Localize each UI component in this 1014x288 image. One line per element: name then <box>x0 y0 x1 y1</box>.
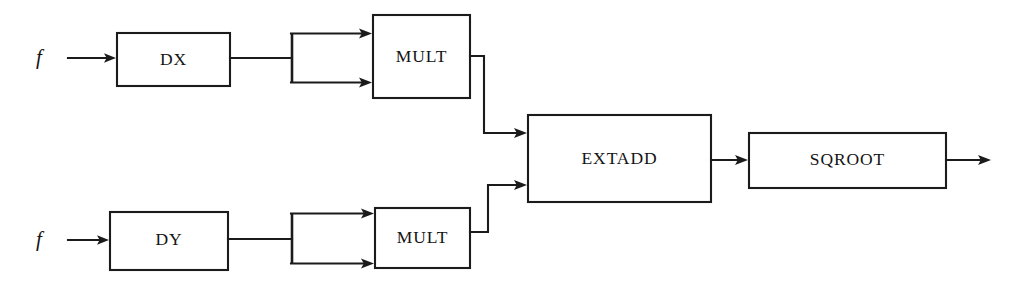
source-label-f-bottom: f <box>36 227 45 251</box>
edge-f-dy <box>68 235 109 245</box>
block-dy-label: DY <box>155 229 182 249</box>
edge-fork-mult-y-lower <box>291 258 374 268</box>
block-dy[interactable]: DY <box>110 212 228 270</box>
source-label-f-top: f <box>36 45 45 69</box>
edge-sqroot-output <box>946 155 991 165</box>
edge-fork-mult-x-lower <box>291 77 372 87</box>
block-diagram-canvas: f DX MULT <box>0 0 1014 288</box>
edge-fork-mult-y-upper <box>291 208 374 218</box>
block-extadd-label: EXTADD <box>582 148 658 168</box>
block-sqroot[interactable]: SQROOT <box>749 133 946 188</box>
edge-mult-x-extadd <box>470 56 527 138</box>
block-sqroot-label: SQROOT <box>810 149 885 169</box>
edge-extadd-sqroot <box>711 155 748 165</box>
block-mult-x[interactable]: MULT <box>373 15 470 98</box>
block-mult-y-label: MULT <box>397 227 449 247</box>
block-dx[interactable]: DX <box>117 33 230 86</box>
block-mult-x-label: MULT <box>396 46 448 66</box>
diagram-svg: f DX MULT <box>0 0 1014 288</box>
edge-mult-y-extadd <box>470 180 527 232</box>
block-extadd[interactable]: EXTADD <box>528 115 711 202</box>
edge-f-dx <box>68 53 116 63</box>
block-dx-label: DX <box>160 49 187 69</box>
block-mult-y[interactable]: MULT <box>375 208 470 268</box>
edge-fork-mult-x-upper <box>291 28 372 38</box>
